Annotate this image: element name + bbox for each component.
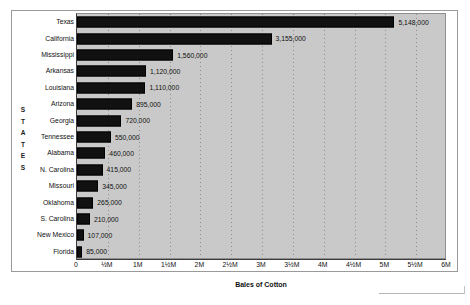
category-label: California <box>26 34 74 41</box>
bar <box>77 82 145 93</box>
x-tick-label: 5½M <box>408 261 423 268</box>
bar <box>77 99 132 110</box>
bar-row: 895,000 <box>77 99 446 110</box>
category-label: Tennessee <box>26 133 74 140</box>
bar-row: 5,148,000 <box>77 17 446 28</box>
bar-row: 415,000 <box>77 164 446 175</box>
bar-value-label: 3,155,000 <box>272 35 306 42</box>
bar-row: 345,000 <box>77 181 446 192</box>
x-tick-label: ½M <box>101 261 112 268</box>
bar-value-label: 1,110,000 <box>145 84 179 91</box>
bar-value-label: 415,000 <box>103 166 132 173</box>
bar-value-label: 210,000 <box>90 216 119 223</box>
category-label: Texas <box>26 18 74 25</box>
bar-value-label: 895,000 <box>132 101 161 108</box>
bar-value-label: 85,000 <box>82 248 107 255</box>
category-label: Arizona <box>26 100 74 107</box>
bar-row: 1,120,000 <box>77 66 446 77</box>
bar <box>77 33 272 44</box>
x-tick-label: 4½M <box>346 261 361 268</box>
category-axis-labels: TexasCaliforniaMississippiArkansasLouisi… <box>26 13 74 259</box>
bar-value-label: 5,148,000 <box>394 19 428 26</box>
chart-figure: S T A T E S TexasCaliforniaMississippiAr… <box>0 0 470 305</box>
x-tick-label: 1M <box>133 261 142 268</box>
bar-value-label: 720,000 <box>121 117 150 124</box>
bar-value-label: 265,000 <box>93 199 122 206</box>
bar-row: 85,000 <box>77 246 446 257</box>
bar-row: 265,000 <box>77 197 446 208</box>
bar <box>77 17 394 28</box>
x-tick-label: 1½M <box>161 261 176 268</box>
bar <box>77 197 93 208</box>
x-axis-title: Bales of Cotton <box>76 281 446 288</box>
bar <box>77 181 98 192</box>
x-tick-label: 0 <box>74 261 78 268</box>
bar-row: 1,560,000 <box>77 50 446 61</box>
scan-artifact-tick <box>464 286 465 294</box>
scan-artifact-line <box>379 293 465 294</box>
bar <box>77 66 146 77</box>
plot-area: 5,148,0003,155,0001,560,0001,120,0001,11… <box>76 13 446 259</box>
category-label: Florida <box>26 247 74 254</box>
category-label: Missouri <box>26 182 74 189</box>
x-tick-label: 5M <box>380 261 389 268</box>
category-label: S. Carolina <box>26 215 74 222</box>
bar-value-label: 345,000 <box>98 183 127 190</box>
category-label: Arkansas <box>26 67 74 74</box>
bar-row: 720,000 <box>77 115 446 126</box>
x-tick-label: 3M <box>256 261 265 268</box>
x-tick-label: 2½M <box>223 261 238 268</box>
category-label: Louisiana <box>26 83 74 90</box>
bar-value-label: 107,000 <box>84 232 113 239</box>
bar <box>77 115 121 126</box>
bar-value-label: 1,120,000 <box>146 68 180 75</box>
x-tick-label: 6M <box>441 261 450 268</box>
category-label: Georgia <box>26 116 74 123</box>
bar-value-label: 460,000 <box>105 150 134 157</box>
bar-row: 107,000 <box>77 230 446 241</box>
bar <box>77 148 105 159</box>
category-label: New Mexico <box>26 231 74 238</box>
bar <box>77 50 173 61</box>
bar-value-label: 1,560,000 <box>173 52 207 59</box>
bar <box>77 230 84 241</box>
category-label: Mississippi <box>26 51 74 58</box>
bar-value-label: 550,000 <box>111 134 140 141</box>
bar-row: 210,000 <box>77 214 446 225</box>
x-axis-line <box>76 259 446 260</box>
category-label: Oklahoma <box>26 198 74 205</box>
category-label: Alabama <box>26 149 74 156</box>
bar <box>77 164 103 175</box>
x-tick-label: 4M <box>318 261 327 268</box>
bar-row: 460,000 <box>77 148 446 159</box>
bar-row: 550,000 <box>77 132 446 143</box>
bar-row: 1,110,000 <box>77 82 446 93</box>
x-tick-label: 2M <box>195 261 204 268</box>
bar <box>77 214 90 225</box>
bar <box>77 132 111 143</box>
category-label: N. Carolina <box>26 165 74 172</box>
x-axis-tick-labels: 0½M1M1½M2M2½M3M3½M4M4½M5M5½M6M <box>76 261 446 273</box>
x-tick-label: 3½M <box>284 261 299 268</box>
bar-row: 3,155,000 <box>77 33 446 44</box>
